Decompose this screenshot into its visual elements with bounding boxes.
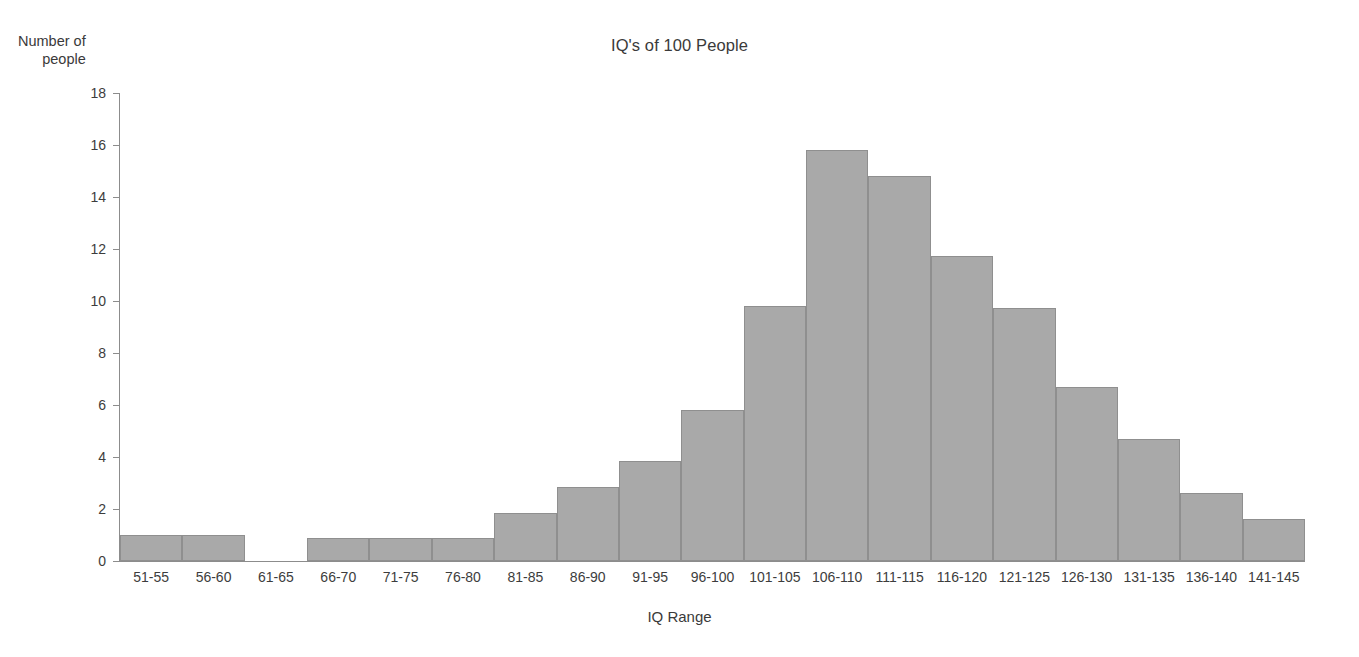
x-axis-tick-label: 81-85: [494, 569, 556, 585]
x-axis-tick-label: 86-90: [557, 569, 619, 585]
y-axis-tick-mark: [113, 509, 119, 510]
y-axis-tick-mark: [113, 561, 119, 562]
bar-series: [120, 93, 1305, 561]
y-axis-tick-mark: [113, 405, 119, 406]
y-axis-tick-label: 12: [60, 241, 106, 257]
chart-title: IQ's of 100 People: [0, 36, 1359, 55]
histogram-bar: [120, 535, 182, 561]
y-axis-tick-label: 4: [60, 449, 106, 465]
histogram-bar: [1056, 387, 1118, 561]
y-axis-tick-mark: [113, 145, 119, 146]
histogram-bar: [993, 308, 1055, 562]
histogram-bar: [806, 150, 868, 561]
y-axis-tick-mark: [113, 353, 119, 354]
histogram-bar: [681, 410, 743, 561]
histogram-bar: [307, 538, 369, 561]
y-axis-title: Number of people: [18, 32, 110, 68]
y-axis-title-line2: people: [18, 50, 110, 68]
y-axis-tick-mark: [113, 197, 119, 198]
y-axis-tick-label: 16: [60, 137, 106, 153]
x-axis-tick-label: 126-130: [1056, 569, 1118, 585]
histogram-bar: [619, 461, 681, 561]
y-axis-tick-label: 18: [60, 85, 106, 101]
x-axis-tick-label: 121-125: [993, 569, 1055, 585]
y-axis-tick-mark: [113, 457, 119, 458]
x-axis-tick-label: 141-145: [1243, 569, 1305, 585]
y-axis-tick-label: 10: [60, 293, 106, 309]
histogram-bar: [1118, 439, 1180, 561]
x-axis-tick-label: 136-140: [1180, 569, 1242, 585]
y-axis-tick-label: 0: [60, 553, 106, 569]
x-axis-tick-label: 131-135: [1118, 569, 1180, 585]
y-axis-tick-mark: [113, 301, 119, 302]
x-axis-line: [119, 561, 1305, 562]
y-axis-tick-label: 6: [60, 397, 106, 413]
y-axis-title-line1: Number of: [18, 33, 86, 49]
x-axis-tick-label: 116-120: [931, 569, 993, 585]
histogram-bar: [557, 487, 619, 561]
histogram-bar: [369, 538, 431, 561]
x-axis-tick-label: 101-105: [744, 569, 806, 585]
y-axis-tick-label: 14: [60, 189, 106, 205]
histogram-bar: [182, 535, 244, 561]
histogram-bar: [1180, 493, 1242, 561]
y-axis-tick-mark: [113, 249, 119, 250]
y-axis-tick-label: 8: [60, 345, 106, 361]
histogram-bar: [494, 513, 556, 561]
x-axis-tick-label: 91-95: [619, 569, 681, 585]
x-axis-tick-label: 51-55: [120, 569, 182, 585]
x-axis-tick-label: 111-115: [868, 569, 930, 585]
histogram-bar: [868, 176, 930, 561]
histogram-figure: IQ's of 100 People Number of people 0246…: [0, 0, 1359, 657]
histogram-bar: [931, 256, 993, 562]
x-axis-tick-label: 96-100: [681, 569, 743, 585]
x-axis-tick-label: 61-65: [245, 569, 307, 585]
x-axis-ticks: 51-5556-6061-6566-7071-7576-8081-8586-90…: [120, 569, 1305, 595]
x-axis-title: IQ Range: [0, 608, 1359, 625]
x-axis-tick-label: 71-75: [369, 569, 431, 585]
y-axis-tick-label: 2: [60, 501, 106, 517]
x-axis-tick-label: 106-110: [806, 569, 868, 585]
y-axis-tick-mark: [113, 93, 119, 94]
x-axis-tick-label: 56-60: [182, 569, 244, 585]
x-axis-tick-label: 66-70: [307, 569, 369, 585]
histogram-bar: [744, 306, 806, 561]
x-axis-tick-label: 76-80: [432, 569, 494, 585]
histogram-bar: [432, 538, 494, 561]
histogram-bar: [1243, 519, 1305, 561]
